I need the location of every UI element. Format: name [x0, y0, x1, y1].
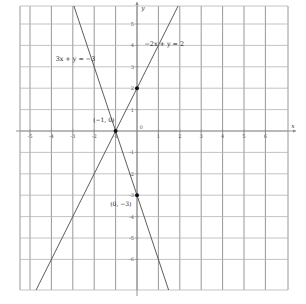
x-tick-label: 3	[200, 133, 203, 139]
coordinate-plane-chart: -5-4-3-2-10123456 54321-1-2-3-4-5-6 xy 3…	[0, 0, 306, 304]
marked-point-dot	[114, 129, 118, 133]
point-coordinate-label: (−1, 0)	[93, 116, 114, 123]
equation-label: −2x + y = 2	[144, 40, 184, 48]
x-tick-label: -4	[49, 133, 55, 139]
x-tick-label: 2	[178, 133, 181, 139]
y-tick-label: -1	[129, 149, 134, 155]
x-tick-label: 6	[264, 133, 267, 139]
y-tick-label: 3	[131, 64, 134, 70]
point-coordinate-label: (0, −3)	[110, 200, 131, 207]
x-tick-label: 0	[140, 124, 143, 130]
y-tick-label: 5	[131, 21, 134, 27]
y-tick-label: -3	[129, 192, 134, 198]
x-tick-label: -3	[70, 133, 75, 139]
x-tick-label: 5	[242, 133, 245, 139]
graph-screenshot: -5-4-3-2-10123456 54321-1-2-3-4-5-6 xy 3…	[0, 0, 306, 304]
marked-point-dot	[135, 86, 139, 90]
y-tick-label: 1	[131, 107, 134, 113]
x-tick-label: -5	[27, 133, 32, 139]
equation-label: 3x + y = −3	[56, 55, 96, 63]
y-tick-label: -5	[129, 235, 134, 241]
marked-point-dot	[135, 193, 139, 197]
x-tick-label: -2	[92, 133, 97, 139]
y-axis-name: y	[140, 4, 145, 12]
y-tick-label: 2	[131, 85, 134, 91]
y-tick-label: -4	[129, 214, 135, 220]
x-tick-label: 1	[157, 133, 160, 139]
y-tick-label: -6	[129, 256, 134, 262]
